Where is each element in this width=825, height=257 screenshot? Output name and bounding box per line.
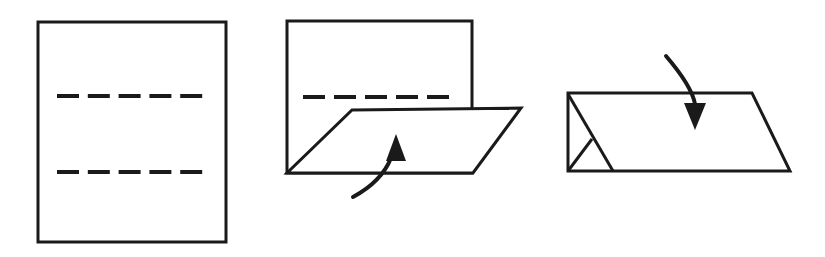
paper-rectangle [38, 22, 226, 242]
folding-instruction-diagram: Paper folding instructions — letter fold… [0, 0, 825, 257]
diagram-canvas [0, 0, 825, 257]
folded-paper-body [568, 93, 790, 171]
panel-1-flat-sheet [38, 22, 226, 242]
